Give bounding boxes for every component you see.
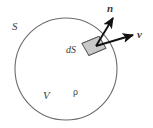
closed-surface-outline	[15, 18, 117, 120]
surface-element-patch	[82, 34, 106, 57]
normal-vector-label-n: n	[107, 3, 113, 14]
diagram-svg	[0, 0, 153, 128]
density-label-rho: ρ	[73, 87, 78, 97]
figure-canvas: S V ρ dS n v	[0, 0, 153, 128]
surface-label-S: S	[12, 21, 18, 32]
volume-label-V: V	[43, 90, 50, 101]
surface-element-label-dS: dS	[66, 45, 76, 55]
velocity-vector-label-v: v	[137, 29, 142, 40]
